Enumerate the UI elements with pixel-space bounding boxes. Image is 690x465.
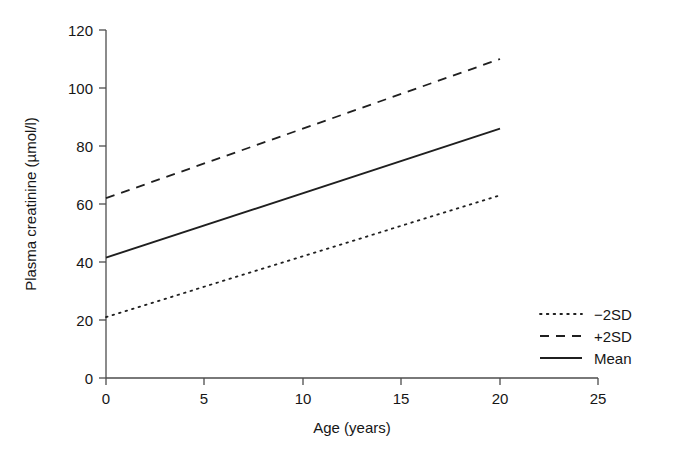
x-tick-label: 0: [102, 390, 110, 407]
x-tick-label: 5: [200, 390, 208, 407]
x-tick-label: 25: [590, 390, 607, 407]
plasma-creatinine-chart: 120 100 80 60 40 20 0 0 5 10 15 20 25 Ag…: [0, 0, 690, 465]
x-axis-title: Age (years): [313, 419, 391, 436]
y-tick-label: 100: [68, 80, 93, 97]
x-tick-label: 15: [393, 390, 410, 407]
y-tick-label: 60: [76, 196, 93, 213]
y-tick-label: 20: [76, 312, 93, 329]
x-tick-label: 10: [295, 390, 312, 407]
y-tick-label: 80: [76, 138, 93, 155]
y-tick-label: 0: [85, 370, 93, 387]
legend-label-mean: Mean: [594, 350, 632, 367]
legend-label-plus2sd: +2SD: [594, 328, 632, 345]
y-tick-label: 40: [76, 254, 93, 271]
legend-label-minus2sd: −2SD: [594, 306, 632, 323]
y-tick-label: 120: [68, 22, 93, 39]
x-tick-label: 20: [492, 390, 509, 407]
y-axis-title: Plasma creatinine (µmol/l): [22, 117, 39, 291]
